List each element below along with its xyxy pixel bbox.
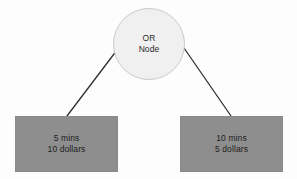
option-right-cost: 5 dollars bbox=[215, 144, 248, 155]
or-node[interactable]: OR Node bbox=[113, 8, 185, 80]
or-node-label-line1: OR bbox=[143, 33, 156, 44]
edge-root-to-left-option bbox=[67, 50, 117, 116]
edge-root-to-right-option bbox=[184, 48, 231, 116]
diagram-canvas: OR Node 5 mins 10 dollars 10 mins 5 doll… bbox=[0, 0, 297, 179]
option-right-duration: 10 mins bbox=[216, 133, 246, 144]
option-left-cost: 10 dollars bbox=[48, 144, 86, 155]
or-node-label-line2: Node bbox=[139, 44, 160, 55]
option-left-duration: 5 mins bbox=[54, 133, 80, 144]
option-right-box[interactable]: 10 mins 5 dollars bbox=[180, 116, 283, 172]
option-left-box[interactable]: 5 mins 10 dollars bbox=[15, 116, 118, 172]
